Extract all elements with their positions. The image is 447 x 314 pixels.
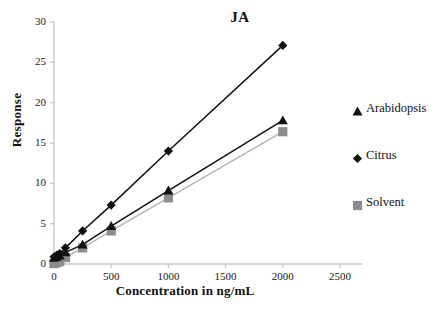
x-tick-label: 2500: [320, 270, 360, 282]
triangle-marker: [353, 106, 363, 115]
chart-figure: JA Response Concentration in ng/mL 05101…: [0, 0, 447, 314]
legend-label: Arabidopsis: [366, 101, 426, 116]
x-axis-title: Concentration in ng/mL: [40, 283, 330, 299]
legend-entry-arabidopsis[interactable]: Arabidopsis: [352, 100, 447, 116]
series-citrus: [49, 41, 287, 262]
y-tick-label: 30: [20, 15, 46, 27]
y-tick-label: 15: [20, 136, 46, 148]
square-marker: [353, 200, 362, 209]
y-tick-label: 25: [20, 55, 46, 67]
series-arabidopsis: [49, 115, 288, 261]
chart-legend: ArabidopsisCitrusSolvent: [352, 100, 447, 241]
y-axis-title: Response: [9, 75, 25, 165]
y-tick-label: 5: [20, 217, 46, 229]
square-marker: [278, 127, 287, 136]
y-tick-label: 10: [20, 176, 46, 188]
legend-entry-solvent[interactable]: Solvent: [352, 194, 447, 210]
triangle-marker: [352, 103, 363, 114]
x-tick-label: 1000: [148, 270, 188, 282]
square-marker: [352, 197, 363, 208]
triangle-marker: [278, 115, 288, 124]
x-tick-label: 0: [34, 270, 74, 282]
triangle-marker: [106, 221, 116, 230]
x-tick-label: 1500: [206, 270, 246, 282]
diamond-marker: [353, 153, 362, 162]
square-marker: [164, 193, 173, 202]
figure-caption: [8, 303, 438, 314]
legend-label: Citrus: [366, 148, 397, 163]
x-tick-label: 500: [91, 270, 131, 282]
y-tick-label: 20: [20, 96, 46, 108]
x-tick-label: 2000: [263, 270, 303, 282]
chart-title: JA: [180, 9, 300, 26]
legend-entry-citrus[interactable]: Citrus: [352, 147, 447, 163]
diamond-marker: [352, 150, 363, 161]
y-tick-label: 0: [20, 257, 46, 269]
axes-group: [50, 22, 362, 268]
legend-label: Solvent: [366, 195, 404, 210]
triangle-marker: [163, 186, 173, 195]
series-group: [49, 41, 288, 268]
